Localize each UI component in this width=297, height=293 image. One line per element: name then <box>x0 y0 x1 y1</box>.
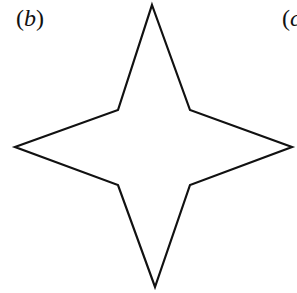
four-pointed-star-shape <box>15 5 292 287</box>
figure-canvas: (b) (c <box>0 0 297 293</box>
star-diagram <box>0 0 297 293</box>
